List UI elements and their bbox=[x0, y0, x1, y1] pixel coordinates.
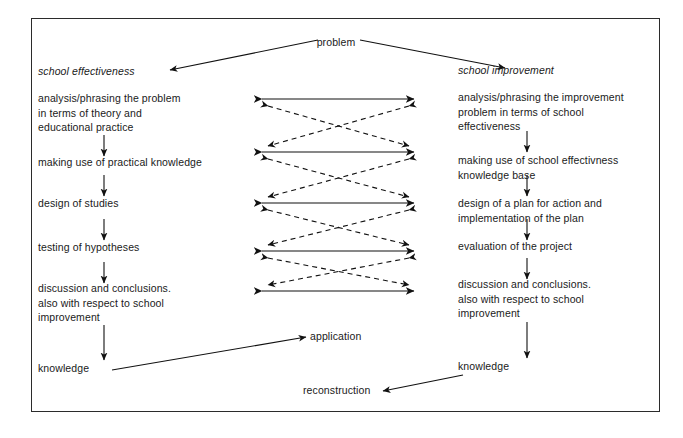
left-column-heading: school effectiveness bbox=[38, 64, 135, 79]
left-step-6-knowledge: knowledge bbox=[38, 361, 89, 376]
right-step-1: analysis/phrasing the improvement proble… bbox=[458, 90, 624, 134]
reconstruction-label: reconstruction bbox=[303, 383, 370, 398]
problem-label: problem bbox=[300, 35, 372, 50]
right-column-heading: school improvement bbox=[458, 63, 554, 78]
right-step-5: discussion and conclusions. also with re… bbox=[458, 277, 591, 321]
left-step-5: discussion and conclusions. also with re… bbox=[38, 281, 171, 325]
right-step-4: evaluation of the project bbox=[458, 239, 572, 254]
left-step-2: making use of practical knowledge bbox=[38, 155, 202, 170]
left-step-3: design of studies bbox=[38, 196, 119, 211]
left-step-1: analysis/phrasing the problem in terms o… bbox=[38, 91, 181, 135]
right-step-2: making use of school effectivness knowle… bbox=[458, 153, 618, 182]
application-label: application bbox=[310, 329, 361, 344]
right-step-3: design of a plan for action and implemen… bbox=[458, 196, 602, 225]
right-step-6-knowledge: knowledge bbox=[458, 359, 509, 374]
left-step-4: testing of hypotheses bbox=[38, 240, 139, 255]
diagram-page: problem school effectiveness analysis/ph… bbox=[0, 0, 683, 438]
